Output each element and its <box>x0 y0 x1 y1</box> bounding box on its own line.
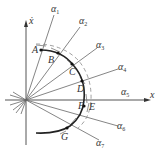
point-label-B: B <box>48 55 54 65</box>
point-label-D: D <box>77 84 84 94</box>
ray-alpha-7-ext <box>13 92 26 100</box>
point-G <box>65 126 68 129</box>
ray-label-alpha-6: α6 <box>117 121 125 132</box>
ray-label-alpha-7: α7 <box>96 138 104 149</box>
horizontal-axis-label: x <box>150 90 154 100</box>
ray-label-alpha-2: α2 <box>79 16 87 27</box>
ray-alpha-6 <box>26 100 118 126</box>
ray-label-alpha-4: α4 <box>118 62 126 73</box>
ray-alpha-6-ext <box>10 95 26 100</box>
point-B <box>56 51 59 54</box>
ray-label-alpha-5: α5 <box>121 87 129 98</box>
ray-label-alpha-3: α3 <box>96 40 104 51</box>
point-label-A: A <box>32 45 38 55</box>
point-label-E: E <box>89 102 95 112</box>
point-A <box>39 48 42 51</box>
vertical-axis-label: ẋ <box>29 16 33 26</box>
vertical-axis-arrow-icon <box>24 20 28 27</box>
ray-label-alpha-1: α1 <box>51 4 59 15</box>
point-label-C: C <box>69 67 76 77</box>
point-label-G: G <box>61 132 68 142</box>
point-label-F: F <box>78 101 84 111</box>
